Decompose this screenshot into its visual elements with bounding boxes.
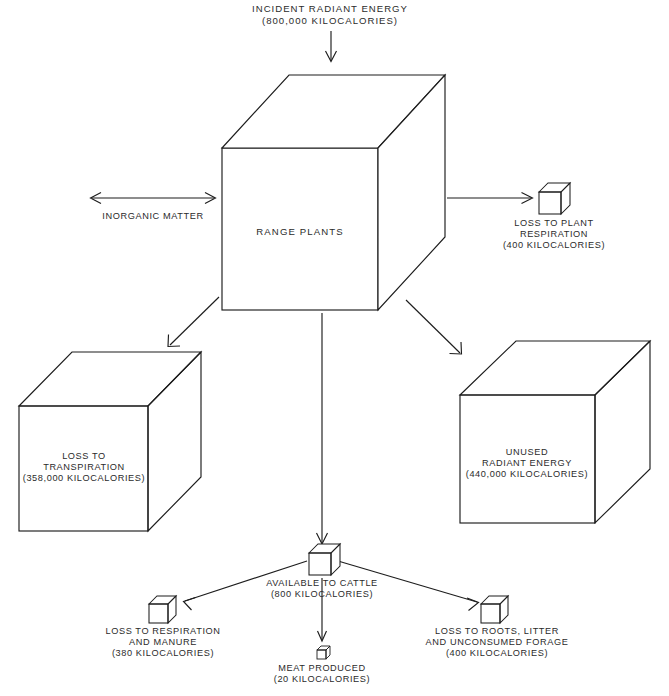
flow-range-plants-to-plant-respiration <box>447 193 533 204</box>
unused-label-line2: RADIANT ENERGY <box>482 458 572 468</box>
node-unused-radiant-energy: UNUSED RADIANT ENERGY (440,000 KILOCALOR… <box>460 341 650 523</box>
flow-inorganic-matter: INORGANIC MATTER <box>91 193 216 222</box>
node-loss-to-roots-litter: LOSS TO ROOTS, LITTER AND UNCONSUMED FOR… <box>426 596 569 658</box>
node-available-to-cattle: AVAILABLE TO CATTLE (800 KILOCALORIES) <box>266 544 378 599</box>
node-incident-radiant-energy: INCIDENT RADIANT ENERGY (800,000 KILOCAL… <box>252 3 408 26</box>
plant-respiration-label-line3: (400 KILOCALORIES) <box>503 240 605 250</box>
respiration-manure-label-line2: AND MANURE <box>129 637 197 647</box>
flow-range-plants-to-available-to-cattle <box>317 313 328 544</box>
node-loss-to-respiration-and-manure: LOSS TO RESPIRATION AND MANURE (380 KILO… <box>105 596 220 658</box>
available-to-cattle-label-line2: (800 KILOCALORIES) <box>271 589 373 599</box>
transpiration-label-line2: TRANSPIRATION <box>43 462 125 472</box>
node-loss-to-transpiration: LOSS TO TRANSPIRATION (358,000 KILOCALOR… <box>19 352 201 531</box>
available-to-cattle-label-line1: AVAILABLE TO CATTLE <box>266 578 378 588</box>
roots-litter-label-line3: (400 KILOCALORIES) <box>446 648 548 658</box>
figure-caption <box>16 691 396 696</box>
diagram-canvas: INCIDENT RADIANT ENERGY (800,000 KILOCAL… <box>0 0 669 696</box>
incident-label-line2: (800,000 KILOCALORIES) <box>262 15 398 26</box>
node-range-plants: RANGE PLANTS <box>222 75 445 310</box>
meat-produced-label-line2: (20 KILOCALORIES) <box>274 674 371 684</box>
unused-label-line3: (440,000 KILOCALORIES) <box>466 469 588 479</box>
node-loss-to-plant-respiration: LOSS TO PLANT RESPIRATION (400 KILOCALOR… <box>503 183 605 250</box>
transpiration-label-line3: (358,000 KILOCALORIES) <box>23 473 145 483</box>
plant-respiration-label-line2: RESPIRATION <box>520 229 588 239</box>
respiration-manure-label-line3: (380 KILOCALORIES) <box>112 648 214 658</box>
meat-produced-label-line1: MEAT PRODUCED <box>278 663 366 673</box>
flow-range-plants-to-transpiration <box>168 297 219 347</box>
flow-range-plants-to-unused-radiant-energy <box>406 300 462 354</box>
node-meat-produced: MEAT PRODUCED (20 KILOCALORIES) <box>274 646 371 684</box>
respiration-manure-label-line1: LOSS TO RESPIRATION <box>105 626 220 636</box>
roots-litter-label-line2: AND UNCONSUMED FORAGE <box>426 637 569 647</box>
range-plants-label: RANGE PLANTS <box>256 226 343 237</box>
plant-respiration-label-line1: LOSS TO PLANT <box>514 218 593 228</box>
roots-litter-label-line1: LOSS TO ROOTS, LITTER <box>435 626 559 636</box>
inorganic-matter-label: INORGANIC MATTER <box>102 211 203 221</box>
incident-label-line1: INCIDENT RADIANT ENERGY <box>252 3 408 14</box>
flow-incident-to-range-plants <box>326 31 337 62</box>
unused-label-line1: UNUSED <box>506 447 548 457</box>
energy-flow-diagram: INCIDENT RADIANT ENERGY (800,000 KILOCAL… <box>0 0 669 696</box>
transpiration-label-line1: LOSS TO <box>62 451 106 461</box>
